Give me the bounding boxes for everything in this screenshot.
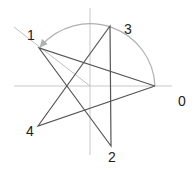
point-label-4: 4 (26, 123, 34, 139)
pentagram-diagram: 01234 (0, 0, 193, 170)
point-label-1: 1 (27, 27, 35, 43)
point-label-2: 2 (108, 149, 116, 165)
point-label-3: 3 (124, 21, 132, 37)
point-label-0: 0 (178, 93, 186, 109)
point-labels: 01234 (26, 21, 186, 165)
